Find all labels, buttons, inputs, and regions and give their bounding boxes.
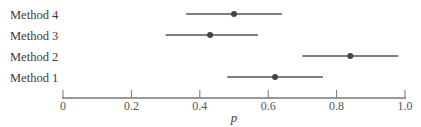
method-rows: Method 4Method 3Method 2Method 1 xyxy=(10,8,398,85)
method-label: Method 4 xyxy=(10,8,59,22)
tick-label: 0.4 xyxy=(192,99,207,113)
method-row: Method 3 xyxy=(10,29,258,43)
x-axis-label: p xyxy=(230,110,238,125)
tick-label: 0.2 xyxy=(124,99,139,113)
tick-label: 0 xyxy=(60,99,66,113)
tick-label: 0.6 xyxy=(261,99,276,113)
interval-chart: Method 4Method 3Method 2Method 1 00.20.4… xyxy=(0,0,421,127)
method-row: Method 2 xyxy=(10,50,398,64)
tick-label: 0.8 xyxy=(329,99,344,113)
method-label: Method 2 xyxy=(10,50,58,64)
estimate-dot xyxy=(272,74,278,80)
method-row: Method 1 xyxy=(10,71,323,85)
estimate-dot xyxy=(231,11,237,17)
estimate-dot xyxy=(347,53,353,59)
method-label: Method 1 xyxy=(10,71,58,85)
x-axis: 00.20.40.60.81.0 p xyxy=(60,90,413,125)
estimate-dot xyxy=(207,32,213,38)
method-row: Method 4 xyxy=(10,8,282,22)
tick-label: 1.0 xyxy=(398,99,413,113)
method-label: Method 3 xyxy=(10,29,58,43)
